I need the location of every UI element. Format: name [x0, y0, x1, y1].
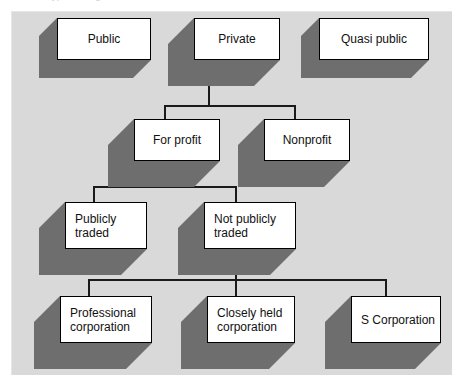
node-not-publicly-traded-face: Not publicly traded — [204, 202, 296, 249]
connector-to-professional-corporation — [88, 279, 90, 296]
node-private-face: Private — [194, 18, 280, 60]
node-professional-corporation-label: Professional corporation — [61, 306, 151, 334]
node-s-corporation-label: S Corporation — [352, 313, 440, 327]
node-public[interactable]: Public — [39, 18, 151, 78]
node-private[interactable]: Private — [168, 18, 280, 86]
node-publicly-traded[interactable]: Publicly traded — [39, 202, 147, 275]
connector-to-closely-held-corporation — [235, 279, 237, 296]
connector-to-s-corporation — [385, 279, 387, 296]
node-public-label: Public — [58, 32, 150, 46]
node-closely-held-corporation-face: Closely held corporation — [207, 296, 295, 343]
node-nonprofit[interactable]: Nonprofit — [238, 119, 350, 187]
node-publicly-traded-face: Publicly traded — [65, 202, 147, 249]
node-nonprofit-face: Nonprofit — [264, 119, 350, 161]
node-quasi-public-label: Quasi public — [320, 32, 428, 46]
node-for-profit-face: For profit — [134, 119, 220, 161]
node-professional-corporation[interactable]: Professional corporation — [34, 296, 152, 369]
connector-notpublic-bus — [88, 279, 387, 281]
node-for-profit[interactable]: For profit — [108, 119, 220, 187]
connector-private-bus — [164, 105, 296, 107]
connector-private-stem — [208, 86, 210, 106]
node-public-face: Public — [57, 18, 151, 60]
cut-off-header-sliver: Exhibit Types of organizations — [0, 0, 464, 9]
diagram-screenshot: Exhibit Types of organizations Public — [0, 0, 464, 382]
node-for-profit-label: For profit — [135, 133, 219, 147]
node-private-label: Private — [195, 32, 279, 46]
connector-to-publicly-traded — [93, 186, 95, 202]
node-s-corporation-face: S Corporation — [351, 296, 441, 343]
node-closely-held-corporation-label: Closely held corporation — [208, 306, 294, 334]
connector-to-for-profit — [164, 105, 166, 119]
node-nonprofit-label: Nonprofit — [265, 133, 349, 147]
node-quasi-public[interactable]: Quasi public — [301, 18, 429, 78]
cut-off-header-text: Exhibit Types of organizations — [14, 0, 145, 1]
node-not-publicly-traded-label: Not publicly traded — [205, 212, 295, 240]
node-quasi-public-face: Quasi public — [319, 18, 429, 60]
node-not-publicly-traded[interactable]: Not publicly traded — [178, 202, 296, 275]
diagram-panel: Public Private Quasi public For profit — [11, 11, 452, 375]
node-publicly-traded-label: Publicly traded — [66, 212, 146, 240]
node-s-corporation[interactable]: S Corporation — [325, 296, 441, 369]
connector-to-nonprofit — [294, 105, 296, 119]
node-closely-held-corporation[interactable]: Closely held corporation — [181, 296, 295, 369]
node-professional-corporation-face: Professional corporation — [60, 296, 152, 343]
connector-to-not-publicly-traded — [235, 186, 237, 202]
